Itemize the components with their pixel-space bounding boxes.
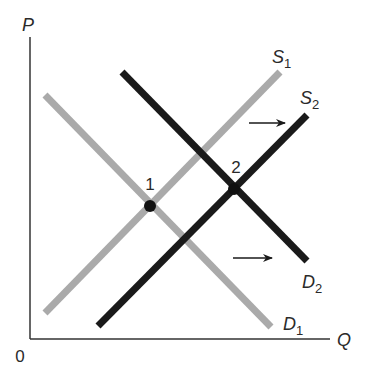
x-axis-label: Q — [337, 330, 351, 350]
equilibrium-label-2: 2 — [231, 158, 240, 177]
y-axis-label: P — [22, 15, 34, 35]
equilibrium-point-1 — [144, 200, 156, 212]
d2-label: D2 — [302, 272, 322, 296]
equilibrium-point-2 — [228, 183, 240, 195]
s2-label: S2 — [300, 88, 319, 112]
origin-label: 0 — [15, 347, 24, 366]
demand-curve-d2 — [122, 72, 307, 261]
s1-label: S1 — [272, 47, 291, 71]
supply-demand-diagram: P Q 0 S1 S2 D2 D1 1 2 — [0, 0, 368, 374]
demand-curve-d1 — [45, 95, 271, 327]
d1-label: D1 — [283, 314, 303, 338]
equilibrium-label-1: 1 — [145, 175, 154, 194]
